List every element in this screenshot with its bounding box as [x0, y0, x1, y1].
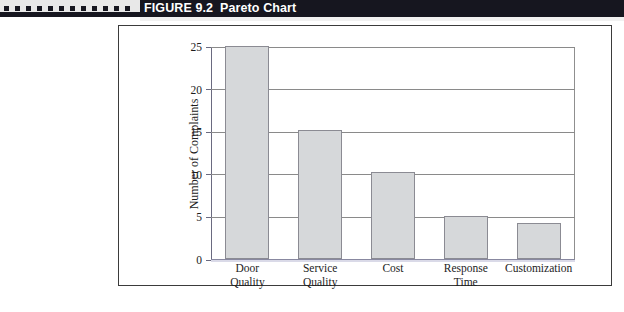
x-axis-tick-label: Customization — [505, 262, 572, 276]
decorative-square — [114, 6, 119, 11]
decorative-square — [37, 6, 42, 11]
plot-right-border — [574, 47, 575, 260]
figure-frame: Number of Complaints 0510152025Door Qual… — [118, 25, 612, 286]
y-axis-tick — [206, 174, 211, 175]
header-rule — [140, 17, 624, 21]
y-axis-title: Number of Complaints — [187, 98, 202, 209]
decorative-square — [26, 6, 31, 11]
y-axis-tick-label: 15 — [191, 126, 203, 138]
decorative-square — [4, 6, 9, 11]
chart-bar — [298, 130, 342, 260]
chart-plot-area: Number of Complaints 0510152025Door Qual… — [211, 47, 575, 260]
chart-bar — [517, 223, 561, 259]
y-axis-tick — [206, 89, 211, 90]
y-axis-tick-label: 5 — [196, 211, 202, 223]
y-axis-tick — [206, 260, 211, 261]
decorative-square — [103, 6, 108, 11]
x-axis-tick-label: Service Quality — [303, 262, 338, 289]
y-axis-tick — [206, 47, 211, 48]
x-axis-tick-label: Response Time — [444, 262, 488, 289]
figure-header: FIGURE 9.2Pareto Chart — [0, 0, 624, 17]
decorative-square — [81, 6, 86, 11]
x-axis-tick-label: Cost — [382, 262, 403, 276]
decorative-square — [92, 6, 97, 11]
y-axis — [211, 47, 212, 260]
y-axis-tick — [206, 132, 211, 133]
figure-number: FIGURE 9.2 — [144, 1, 213, 15]
y-axis-tick-label: 10 — [191, 169, 203, 181]
chart-bar — [371, 172, 415, 259]
decorative-square — [15, 6, 20, 11]
decorative-square — [59, 6, 64, 11]
decorative-square — [48, 6, 53, 11]
decorative-square — [125, 6, 130, 11]
chart-bar — [444, 216, 488, 259]
figure-caption: FIGURE 9.2Pareto Chart — [144, 0, 296, 17]
y-axis-tick — [206, 217, 211, 218]
figure-title: Pareto Chart — [220, 1, 296, 15]
y-axis-tick-label: 25 — [191, 41, 203, 53]
decorative-square — [70, 6, 75, 11]
decorative-underline — [0, 12, 140, 17]
chart-bar — [225, 46, 269, 259]
y-axis-tick-label: 20 — [191, 84, 203, 96]
x-axis-tick-label: Door Quality — [230, 262, 265, 289]
y-axis-tick-label: 0 — [196, 254, 202, 266]
